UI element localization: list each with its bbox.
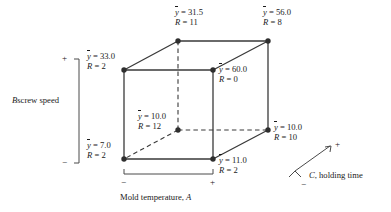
axis-bracket-b <box>74 59 79 163</box>
vertex-markers <box>121 38 270 161</box>
corner-label-back-top-right: y = 56.0 R = 8 <box>263 7 291 27</box>
corner-label-back-bottom-right: y = 10.0 R = 10 <box>274 122 302 142</box>
range-symbol: R <box>175 17 180 27</box>
axis-a-letter: A <box>186 192 191 202</box>
back-bottom-left-mean-line: y = 10.0 <box>138 111 166 121</box>
front-bottom-right-mean-line: y = 11.0 <box>219 155 247 165</box>
front-bottom-right-range-value: = 2 <box>226 165 237 175</box>
back-bottom-left-mean-value: = 10.0 <box>144 111 166 121</box>
back-top-right-mean-line: y = 56.0 <box>263 7 291 17</box>
range-symbol: R <box>219 165 224 175</box>
corner-label-front-bottom-right: y = 11.0 R = 2 <box>219 155 247 175</box>
sign-b-plus: + <box>62 54 67 63</box>
range-symbol: R <box>219 74 224 84</box>
axis-label-b: Bscrew speed <box>12 95 59 105</box>
vertex-front-top-right <box>210 67 215 72</box>
back-top-right-range-value: = 8 <box>270 17 281 27</box>
front-top-right-range-value: = 0 <box>226 74 237 84</box>
front-top-right-mean-value: = 60.0 <box>225 64 247 74</box>
corner-label-front-bottom-left: y = 7.0 R = 2 <box>87 140 111 160</box>
back-bottom-right-range-value: = 10 <box>281 132 297 142</box>
cube-plot-figure: y = 31.5 R = 11 y = 56.0 R = 8 y = 33.0 … <box>0 0 391 212</box>
back-top-right-mean-value: = 56.0 <box>269 7 291 17</box>
ybar-symbol: y <box>219 64 223 74</box>
cube-geometry <box>0 0 391 212</box>
range-symbol: R <box>87 150 92 160</box>
front-bottom-right-range-line: R = 2 <box>219 165 247 175</box>
sign-a-plus: + <box>210 178 215 187</box>
axis-c-name: , holding time <box>315 170 363 180</box>
ybar-symbol: y <box>274 122 278 132</box>
back-bottom-right-mean-value: = 10.0 <box>280 122 302 132</box>
axis-a-name: Mold temperature, <box>120 192 186 202</box>
vertex-back-top-left <box>175 38 180 43</box>
back-top-left-mean-line: y = 31.5 <box>175 7 203 17</box>
front-top-left-mean-line: y = 33.0 <box>87 51 115 61</box>
ybar-symbol: y <box>87 140 91 150</box>
ybar-symbol: y <box>87 51 91 61</box>
sign-c-minus: − <box>301 180 306 189</box>
front-bottom-left-mean-value: = 7.0 <box>93 140 111 150</box>
front-top-right-range-line: R = 0 <box>219 74 247 84</box>
corner-label-front-top-right: y = 60.0 R = 0 <box>219 64 247 84</box>
corner-label-front-top-left: y = 33.0 R = 2 <box>87 51 115 71</box>
ybar-symbol: y <box>263 7 267 17</box>
corner-label-back-top-left: y = 31.5 R = 11 <box>175 7 203 27</box>
vertex-front-top-left <box>121 67 126 72</box>
vertex-front-bottom-left <box>121 156 126 161</box>
vertex-front-bottom-right <box>210 156 215 161</box>
edge-back-bottom-left-to-front-bottom-left <box>124 130 178 159</box>
front-top-left-range-line: R = 2 <box>87 61 115 71</box>
back-bottom-right-range-line: R = 10 <box>274 132 302 142</box>
range-symbol: R <box>263 17 268 27</box>
axis-label-a: Mold temperature, A <box>120 192 191 202</box>
ybar-symbol: y <box>138 111 142 121</box>
visible-edges <box>124 41 268 159</box>
sign-c-plus: + <box>335 140 340 149</box>
vertex-back-top-right <box>265 38 270 43</box>
front-bottom-right-mean-value: = 11.0 <box>225 155 247 165</box>
ybar-symbol: y <box>219 155 223 165</box>
sign-b-minus: − <box>62 158 67 167</box>
edge-front-top-left-to-back-top-left <box>124 41 178 70</box>
back-top-right-range-line: R = 8 <box>263 17 291 27</box>
vertex-back-bottom-left <box>175 127 180 132</box>
axis-bracket-a <box>124 169 213 174</box>
axis-label-c: C, holding time <box>309 170 363 180</box>
back-top-left-range-value: = 11 <box>182 17 197 27</box>
sign-a-minus: − <box>121 178 126 187</box>
range-symbol: R <box>138 121 143 131</box>
back-bottom-left-range-value: = 12 <box>145 121 161 131</box>
back-top-left-mean-value: = 31.5 <box>181 7 203 17</box>
corner-label-back-bottom-left: y = 10.0 R = 12 <box>138 111 166 131</box>
back-bottom-right-mean-line: y = 10.0 <box>274 122 302 132</box>
range-symbol: R <box>274 132 279 142</box>
vertex-back-bottom-right <box>265 127 270 132</box>
back-top-left-range-line: R = 11 <box>175 17 203 27</box>
front-top-left-range-value: = 2 <box>94 61 105 71</box>
front-bottom-left-range-value: = 2 <box>94 150 105 160</box>
back-bottom-left-range-line: R = 12 <box>138 121 166 131</box>
front-top-right-mean-line: y = 60.0 <box>219 64 247 74</box>
ybar-symbol: y <box>175 7 179 17</box>
front-top-left-mean-value: = 33.0 <box>93 51 115 61</box>
front-bottom-left-mean-line: y = 7.0 <box>87 140 111 150</box>
front-bottom-left-range-line: R = 2 <box>87 150 111 160</box>
axis-b-name: screw speed <box>17 95 59 105</box>
range-symbol: R <box>87 61 92 71</box>
